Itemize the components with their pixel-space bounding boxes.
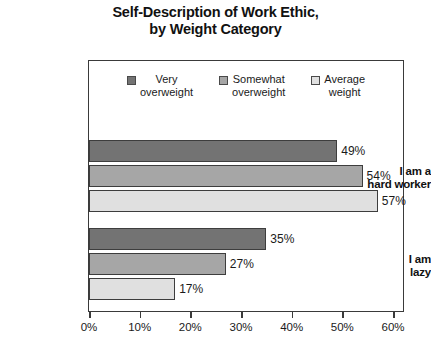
bar-very-overweight-hard-worker[interactable]: [89, 140, 337, 162]
bar-average-weight-hard-worker[interactable]: [89, 190, 378, 212]
bar-value-label: 35%: [270, 230, 294, 248]
x-axis-tick: [89, 312, 91, 318]
category-label-hard-worker: I am a hard worker: [347, 165, 431, 191]
page-title: Self-Description of Work Ethic, by Weigh…: [0, 4, 431, 38]
x-axis-tick-label: 30%: [229, 320, 252, 334]
page-title-line-2: by Weight Category: [0, 21, 431, 38]
x-axis-tick: [342, 312, 344, 318]
x-axis-tick: [393, 312, 395, 318]
x-axis-tick-label: 50%: [331, 320, 354, 334]
category-label-line-1: I am: [347, 253, 431, 266]
x-axis-tick-label: 10%: [128, 320, 151, 334]
category-label-lazy: I am lazy: [347, 253, 431, 279]
page-title-line-1: Self-Description of Work Ethic,: [0, 4, 431, 21]
x-axis-tick-label: 40%: [280, 320, 303, 334]
x-axis-tick: [241, 312, 243, 318]
x-axis-tick-label: 0%: [81, 320, 98, 334]
bar-average-weight-lazy[interactable]: [89, 278, 175, 300]
bar-value-label: 57%: [382, 192, 406, 210]
category-label-line-2: lazy: [347, 266, 431, 279]
category-label-line-2: hard worker: [347, 178, 431, 191]
bar-somewhat-overweight-lazy[interactable]: [89, 253, 226, 275]
bar-value-label: 27%: [230, 255, 254, 273]
bar-value-label: 17%: [179, 280, 203, 298]
bar-very-overweight-lazy[interactable]: [89, 228, 266, 250]
x-axis-tick: [190, 312, 192, 318]
category-label-line-1: I am a: [347, 165, 431, 178]
x-axis-tick: [292, 312, 294, 318]
x-axis-tick-label: 60%: [381, 320, 404, 334]
bar-somewhat-overweight-hard-worker[interactable]: [89, 165, 363, 187]
x-axis-tick-label: 20%: [179, 320, 202, 334]
bar-value-label: 49%: [341, 142, 365, 160]
x-axis-tick: [140, 312, 142, 318]
